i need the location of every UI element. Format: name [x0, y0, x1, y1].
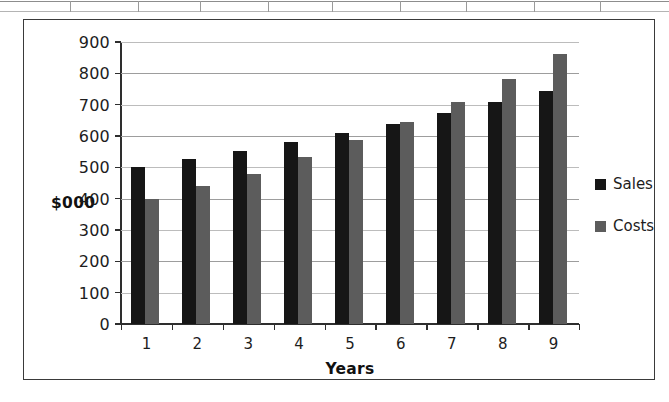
x-axis-label: 3	[243, 335, 253, 353]
scan-rule-tick	[268, 1, 269, 12]
y-axis-tick	[115, 229, 121, 230]
scan-rule-tick	[466, 1, 467, 12]
x-axis-label: 6	[396, 335, 406, 353]
bar-sales-7[interactable]	[437, 113, 451, 325]
scan-rule-tick	[400, 1, 401, 12]
bar-group[interactable]	[233, 42, 263, 324]
bar-costs-1[interactable]	[145, 199, 159, 324]
bar-sales-1[interactable]	[131, 167, 145, 324]
x-axis-label: 1	[142, 335, 152, 353]
x-axis-tick	[528, 324, 529, 330]
x-axis-label: 2	[193, 335, 203, 353]
y-axis-label: 900	[79, 33, 110, 52]
x-axis-label: 5	[345, 335, 355, 353]
x-axis-label: 4	[294, 335, 304, 353]
scan-rule-tick	[200, 1, 201, 12]
plot-area: 0100200300400500600700800900 123456789 Y…	[121, 42, 579, 324]
y-axis-line	[120, 42, 122, 324]
scan-rule-tick	[138, 1, 139, 12]
bar-costs-7[interactable]	[451, 102, 465, 324]
y-axis-label: 400	[79, 189, 110, 208]
bar-costs-4[interactable]	[298, 157, 312, 324]
scan-rule-tick	[332, 1, 333, 12]
bar-group[interactable]	[284, 42, 314, 324]
bar-group[interactable]	[488, 42, 518, 324]
bar-sales-3[interactable]	[233, 151, 247, 324]
legend-item-sales[interactable]: Sales	[595, 175, 665, 193]
y-axis-label: 800	[79, 64, 110, 83]
y-axis-tick	[115, 104, 121, 105]
bar-costs-5[interactable]	[349, 140, 363, 324]
x-axis-tick	[274, 324, 275, 330]
x-axis-tick	[172, 324, 173, 330]
x-axis-tick	[477, 324, 478, 330]
scan-artifact-strip	[0, 0, 669, 13]
y-axis-tick	[115, 261, 121, 262]
y-axis-label: 500	[79, 158, 110, 177]
bar-sales-6[interactable]	[386, 124, 400, 324]
x-axis-tick	[426, 324, 427, 330]
y-axis-label: 200	[79, 252, 110, 271]
x-axis-tick	[325, 324, 326, 330]
scan-rule-tick	[70, 1, 71, 12]
bar-sales-2[interactable]	[182, 159, 196, 324]
y-axis-tick	[115, 167, 121, 168]
bar-group[interactable]	[335, 42, 365, 324]
bar-group[interactable]	[539, 42, 569, 324]
y-axis-tick	[115, 41, 121, 42]
x-axis-label: 8	[498, 335, 508, 353]
y-axis-tick	[115, 73, 121, 74]
x-axis-label: 7	[447, 335, 457, 353]
y-axis-tick	[115, 198, 121, 199]
legend-label: Costs	[613, 217, 654, 235]
scan-rule-tick	[534, 1, 535, 12]
bar-costs-6[interactable]	[400, 122, 414, 324]
y-axis-label: 300	[79, 221, 110, 240]
x-axis-tick	[223, 324, 224, 330]
chart-frame: $000 0100200300400500600700800900 123456…	[23, 19, 655, 380]
bar-sales-4[interactable]	[284, 142, 298, 324]
y-axis-tick	[115, 135, 121, 136]
bar-costs-2[interactable]	[196, 186, 210, 324]
y-axis-label: 100	[79, 283, 110, 302]
bar-group[interactable]	[131, 42, 161, 324]
x-axis-tick	[375, 324, 376, 330]
y-axis-tick	[115, 292, 121, 293]
scan-rule-tick	[600, 1, 601, 12]
bar-group[interactable]	[182, 42, 212, 324]
x-axis-tick	[579, 324, 580, 330]
bar-sales-9[interactable]	[539, 91, 553, 324]
x-axis-title: Years	[121, 360, 579, 378]
bar-sales-5[interactable]	[335, 133, 349, 324]
bar-group[interactable]	[437, 42, 467, 324]
bar-sales-8[interactable]	[488, 102, 502, 324]
bar-costs-8[interactable]	[502, 79, 516, 324]
legend-label: Sales	[613, 175, 653, 193]
scan-rule-top	[0, 1, 669, 2]
scan-rule-bottom	[0, 11, 669, 12]
bar-group[interactable]	[386, 42, 416, 324]
bar-costs-9[interactable]	[553, 54, 567, 324]
x-axis-label: 9	[549, 335, 559, 353]
bar-costs-3[interactable]	[247, 174, 261, 324]
chart-legend: SalesCosts	[595, 175, 665, 259]
legend-swatch-costs	[595, 221, 606, 232]
x-axis-tick	[121, 324, 122, 330]
y-axis-label: 700	[79, 95, 110, 114]
legend-item-costs[interactable]: Costs	[595, 217, 665, 235]
y-axis-label: 0	[100, 315, 110, 334]
legend-swatch-sales	[595, 179, 606, 190]
y-axis-label: 600	[79, 127, 110, 146]
